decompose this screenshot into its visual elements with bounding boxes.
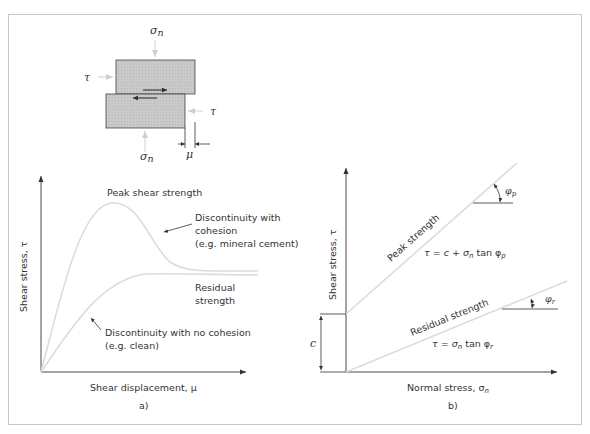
residual-strength-line (346, 281, 567, 372)
cohesion-pointer-arrow (164, 224, 192, 232)
phi-p-label: φp (505, 185, 517, 198)
peak-shear-strength-label: Peak shear strength (107, 187, 202, 198)
tau-right-label: τ (210, 105, 217, 118)
panel-a-x-label: Shear displacement, μ (90, 382, 197, 393)
panel-b-caption: b) (448, 400, 458, 411)
panel-b-y-label: Shear stress, τ (327, 229, 338, 300)
panel-a-caption: a) (139, 400, 149, 411)
figure-canvas: σn σn τ τ μ Peak shear strength Disconti… (0, 0, 590, 434)
phi-r-angle-arc (531, 299, 532, 308)
residual-strength-line2: strength (195, 295, 235, 306)
panel-b-x-label: Normal stress, σn (407, 382, 489, 395)
no-cohesion-note-line2: (e.g. clean) (105, 340, 159, 351)
cohesion-note-line3: (e.g. mineral cement) (195, 238, 298, 249)
phi-p-angle-arc (494, 184, 500, 202)
no-cohesion-note-line1: Discontinuity with no cohesion (105, 327, 251, 338)
figure-border (9, 15, 582, 425)
peak-equation: τ = c + σn tan φp (424, 247, 506, 260)
cohesion-note-line2: cohesion (195, 225, 237, 236)
residual-strength-line1: Residual (195, 282, 235, 293)
shear-specimen: σn σn τ τ μ (84, 24, 217, 164)
no-cohesion-pointer-arrow (91, 318, 101, 330)
cohesion-label: c (310, 337, 316, 350)
sigma-n-bottom-label: σn (140, 150, 154, 164)
panel-b: c Peak strength τ = c + σn tan φp Residu… (310, 163, 567, 411)
tau-left-label: τ (84, 71, 91, 84)
upper-block (116, 60, 195, 94)
mu-label: μ (186, 148, 193, 161)
residual-equation: τ = σn tan φr (432, 338, 494, 351)
panel-a: Peak shear strength Discontinuity with c… (18, 176, 298, 411)
panel-a-y-label: Shear stress, τ (18, 241, 29, 312)
peak-strength-line (346, 163, 517, 314)
lower-block (106, 94, 185, 128)
cohesion-note-line1: Discontinuity with (195, 212, 281, 223)
phi-r-label: φr (545, 293, 556, 306)
sigma-n-top-label: σn (150, 24, 164, 38)
